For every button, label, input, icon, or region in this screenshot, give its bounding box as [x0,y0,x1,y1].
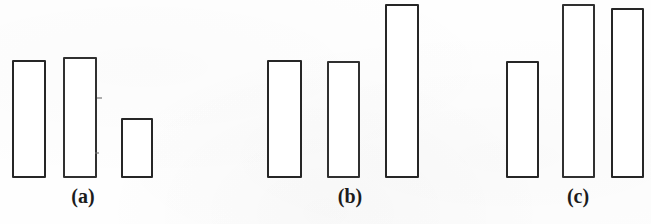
scan-speck-1 [97,97,102,99]
bar-group-2-item-2 [327,61,360,178]
figure-root: (a)(b)(c) [0,0,651,224]
group-label-2: (b) [338,186,362,206]
group-label-1: (a) [71,186,94,206]
group-label-3: (c) [567,186,589,206]
bar-group-3-item-1 [506,61,539,178]
bar-group-3-item-3 [611,8,644,178]
bar-group-1-item-2 [63,57,97,178]
bar-group-1-item-1 [12,60,46,178]
paper-texture [0,0,651,224]
bar-group-1-item-3 [121,118,153,178]
bar-group-2-item-3 [385,4,419,178]
bar-group-3-item-2 [562,4,595,178]
bar-group-2-item-1 [267,60,302,178]
scan-speck-2 [95,152,99,154]
